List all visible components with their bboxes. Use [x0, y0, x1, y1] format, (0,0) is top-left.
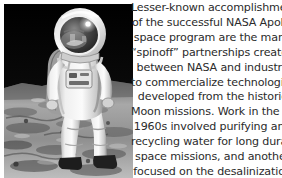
- caption-paragraph: Lesser-known accomplishments of the succ…: [131, 1, 282, 178]
- caption-line: Lesser-known accomplishments: [131, 1, 282, 16]
- caption-line: space program are the many: [131, 31, 282, 46]
- photo-artwork: [4, 4, 133, 178]
- caption-line: recycling water for long duration: [131, 135, 282, 150]
- caption-line: Moon missions. Work in the late: [131, 105, 282, 120]
- caption-line: between NASA and industry: [131, 61, 282, 76]
- caption-line: space missions, and another: [131, 150, 282, 165]
- caption-line: 1960s involved purifying and: [131, 120, 282, 135]
- page-root: Lesser-known accomplishments of the succ…: [0, 0, 282, 178]
- caption-text-column: Lesser-known accomplishments of the succ…: [131, 0, 282, 178]
- caption-line: to commercialize technologies: [131, 76, 282, 91]
- apollo-astronaut-on-moon-photo: [4, 4, 133, 178]
- caption-line: “spinoff” partnerships created: [131, 46, 282, 61]
- caption-line: focused on the desalinization: [131, 165, 282, 178]
- caption-line: of the successful NASA Apollo: [131, 16, 282, 31]
- caption-line: developed from the historic: [131, 90, 282, 105]
